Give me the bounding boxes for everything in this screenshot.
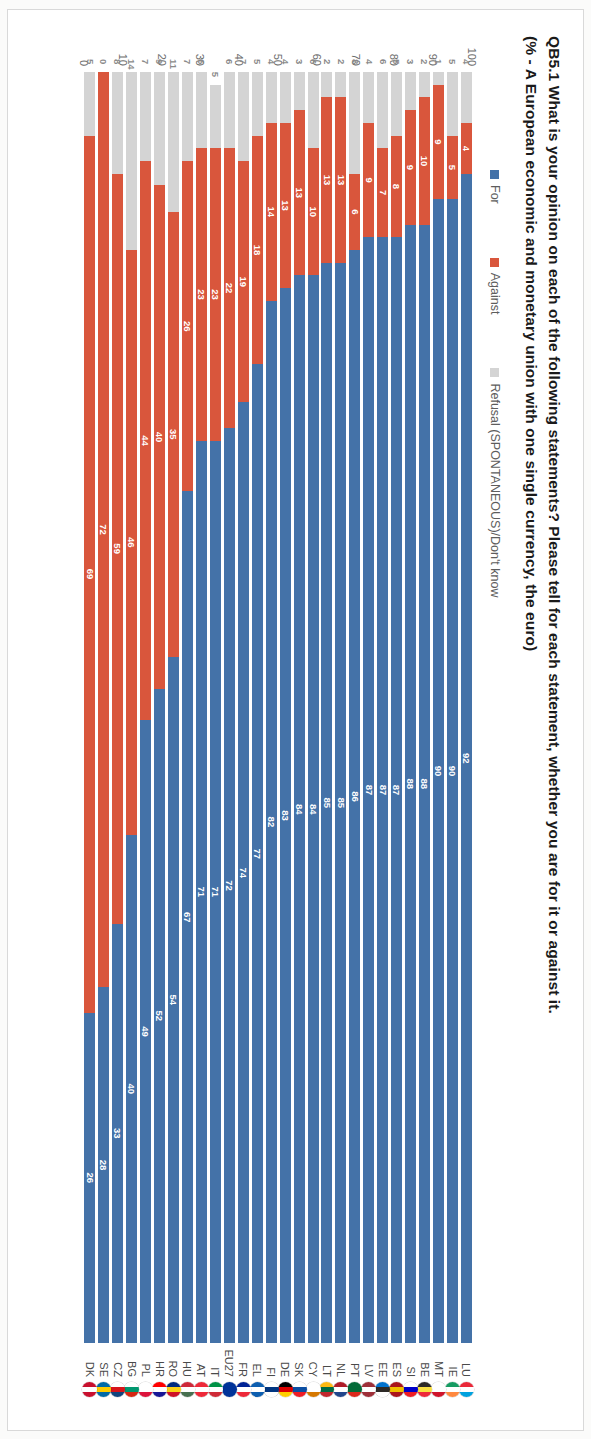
chart-legend: ForAgainstRefusal (SPONTANEOUS)/Don't kn… <box>488 170 502 597</box>
bar-value-label: 14 <box>266 207 276 218</box>
bar-value-label: 6 <box>378 59 388 64</box>
country-code-label: EE <box>376 1347 388 1377</box>
bar-row: 33598 <box>112 72 123 1343</box>
bar-track: 8893 <box>405 72 416 1343</box>
bar-row: 85132 <box>335 72 346 1343</box>
bar-track: 8668 <box>349 72 360 1343</box>
country-flag-icon <box>319 1382 334 1397</box>
bar-value-label: 9 <box>364 177 374 182</box>
bar-segment-against: 13 <box>321 97 332 262</box>
bar-row: 84106 <box>307 72 318 1343</box>
bar-row: 49447 <box>140 72 151 1343</box>
bar-value-label: 87 <box>391 785 401 796</box>
bar-value-label: 82 <box>266 817 276 828</box>
country-flag-icon <box>361 1382 376 1397</box>
country-code-label: MT <box>432 1347 444 1377</box>
bar-value-label: 85 <box>336 798 346 809</box>
bar-value-label: 18 <box>252 245 262 256</box>
country-label-row: FR <box>237 1347 248 1401</box>
bar-segment-for: 84 <box>293 275 304 1343</box>
bar-track: 74197 <box>237 72 248 1343</box>
bar-segment-refusal: 4 <box>461 72 472 123</box>
bar-value-label: 67 <box>182 912 192 923</box>
bar-value-label: 13 <box>280 200 290 211</box>
country-code-label: HR <box>153 1347 165 1377</box>
bar-segment-refusal: 7 <box>181 72 192 161</box>
bar-value-label: 9 <box>405 165 415 170</box>
bar-track: 85132 <box>321 72 332 1343</box>
bar-value-label: 8 <box>391 184 401 189</box>
bar-segment-refusal: 6 <box>377 72 388 148</box>
bar-segment-against: 7 <box>377 148 388 237</box>
country-code-label: FR <box>237 1347 249 1377</box>
legend-label: Against <box>488 273 502 315</box>
bar-segment-refusal: 5 <box>209 85 220 149</box>
bar-segment-against: 13 <box>293 110 304 275</box>
bar-segment-for: 71 <box>195 441 206 1343</box>
bar-track: 88102 <box>419 72 430 1343</box>
bar-value-label: 40 <box>126 1084 136 1095</box>
country-flag-icon <box>152 1382 167 1397</box>
bar-value-label: 2 <box>336 59 346 64</box>
bar-segment-refusal: 4 <box>279 72 290 123</box>
bar-segment-refusal: 9 <box>154 72 165 185</box>
country-flag-icon <box>403 1382 418 1397</box>
country-flag-icon <box>291 1382 306 1397</box>
bar-segment-refusal: 11 <box>167 72 178 212</box>
bar-segment-for: 86 <box>349 250 360 1343</box>
legend-swatch-icon <box>490 368 499 377</box>
bar-value-label: 7 <box>378 190 388 195</box>
country-code-label: DE <box>279 1347 291 1377</box>
bar-value-label: 88 <box>419 778 429 789</box>
bar-segment-for: 88 <box>419 225 430 1343</box>
country-code-label: CY <box>307 1347 319 1377</box>
country-flag-icon <box>193 1382 208 1397</box>
bar-track: 543511 <box>167 72 178 1343</box>
country-code-label: NL <box>334 1347 346 1377</box>
bar-value-label: 26 <box>85 1172 95 1183</box>
country-code-label: CZ <box>111 1347 123 1377</box>
country-flag-icon <box>96 1382 111 1397</box>
country-label-row: MT <box>433 1347 444 1401</box>
country-flag-icon <box>179 1382 194 1397</box>
bar-segment-refusal: 3 <box>293 72 304 110</box>
chart-title-block: QB5.1 What is your opinion on each of th… <box>519 36 566 1166</box>
bar-value-label: 90 <box>447 766 457 777</box>
legend-label: For <box>488 185 502 204</box>
country-flag-icon <box>459 1382 474 1397</box>
plot-area: 1009080706050403020100 92449055909188102… <box>32 36 472 1401</box>
bar-segment-refusal: 2 <box>335 72 346 97</box>
country-label-row: LT <box>321 1347 332 1401</box>
page-subtitle: (% - A European economic and monetary un… <box>519 36 542 1166</box>
bar-value-label: 77 <box>252 848 262 859</box>
country-label-row: EE <box>377 1347 388 1401</box>
bar-segment-against: 23 <box>195 148 206 440</box>
bar-value-label: 83 <box>280 810 290 821</box>
bar-segment-against: 69 <box>84 136 95 1013</box>
country-label-row: SI <box>405 1347 416 1401</box>
bar-track: 9055 <box>447 72 458 1343</box>
bar-value-label: 49 <box>140 1026 150 1037</box>
bar-row: 71236 <box>195 72 206 1343</box>
bar-row: 52409 <box>154 72 165 1343</box>
legend-item-against: Against <box>488 258 502 315</box>
bar-value-label: 71 <box>196 887 206 898</box>
chart-paper: QB5.1 What is your opinion on each of th… <box>8 10 583 1430</box>
bar-track: 67267 <box>181 72 192 1343</box>
country-flag-icon <box>333 1382 348 1397</box>
bar-row: 28720 <box>98 72 109 1343</box>
bar-value-label: 46 <box>126 537 136 548</box>
bar-segment-refusal: 5 <box>251 72 262 136</box>
country-code-label: LT <box>320 1347 332 1377</box>
bar-value-label: 54 <box>168 995 178 1006</box>
bar-row: 404614 <box>126 72 137 1343</box>
country-flag-icon <box>277 1382 292 1397</box>
bar-value-label: 3 <box>294 59 304 64</box>
country-label-row: EL <box>251 1347 262 1401</box>
bar-segment-against: 10 <box>307 148 318 275</box>
bar-value-label: 8 <box>350 59 360 64</box>
country-code-label: SE <box>97 1347 109 1377</box>
bar-value-label: 4 <box>266 59 276 64</box>
country-label-row: CY <box>307 1347 318 1401</box>
bar-value-label: 22 <box>224 283 234 294</box>
